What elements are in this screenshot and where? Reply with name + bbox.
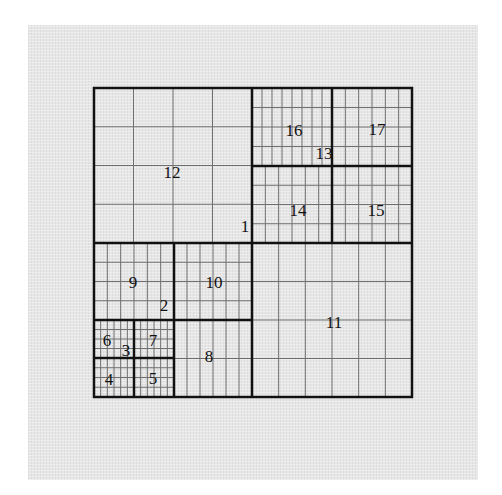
partition-lines (94, 88, 412, 397)
cell-label-10: 10 (206, 273, 223, 292)
cell-label-6: 6 (103, 331, 112, 350)
cell-label-12: 12 (164, 163, 181, 182)
cell-label-3: 3 (122, 341, 131, 360)
cell-label-7: 7 (149, 331, 158, 350)
cell-label-16: 16 (286, 121, 303, 140)
cell-label-5: 5 (149, 369, 158, 388)
cell-label-4: 4 (105, 370, 114, 389)
cell-label-17: 17 (369, 120, 387, 139)
cell-label-15: 15 (368, 201, 385, 220)
cell-label-1: 1 (241, 217, 250, 236)
cell-label-8: 8 (205, 347, 214, 366)
quadtree-diagram: 1211613171415910263784511 (0, 0, 502, 495)
cell-label-11: 11 (326, 313, 342, 332)
cell-label-2: 2 (160, 296, 169, 315)
cell-label-14: 14 (290, 201, 308, 220)
cell-label-13: 13 (316, 144, 333, 163)
cell-label-9: 9 (129, 273, 138, 292)
